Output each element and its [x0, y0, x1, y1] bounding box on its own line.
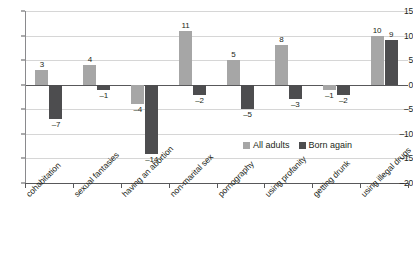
bar-value-label: 9 — [380, 30, 402, 39]
y-axis-tick-mark — [21, 133, 25, 134]
bar-value-label: 5 — [222, 50, 244, 59]
bar-value-label: –3 — [284, 100, 306, 109]
x-axis-tick-mark — [217, 183, 218, 188]
x-axis-tick-mark — [25, 183, 26, 188]
bar-born-again — [385, 40, 398, 84]
x-axis-tick-mark — [121, 183, 122, 188]
bar-all-adults — [227, 60, 240, 85]
bar-born-again — [97, 85, 110, 90]
bar-value-label: 3 — [31, 60, 53, 69]
bar-born-again — [49, 85, 62, 119]
y-axis-tick-label: –10 — [391, 129, 413, 139]
legend-label-all-adults: All adults — [253, 140, 290, 150]
y-axis-tick-mark — [21, 35, 25, 36]
bar-value-label: –2 — [332, 96, 354, 105]
y-axis-tick-mark — [21, 158, 25, 159]
x-axis-tick-mark — [312, 183, 313, 188]
bar-all-adults — [323, 85, 336, 90]
legend-swatch-icon-all-adults — [243, 142, 250, 149]
zero-line — [25, 85, 408, 86]
bar-born-again — [193, 85, 206, 95]
bar-value-label: 8 — [270, 35, 292, 44]
y-axis-line — [25, 11, 26, 183]
bar-value-label: –5 — [236, 110, 258, 119]
x-axis-tick-mark — [360, 183, 361, 188]
bar-born-again — [145, 85, 158, 154]
legend-item-born-again: Born again — [299, 140, 353, 150]
bar-born-again — [241, 85, 254, 110]
gridline — [25, 36, 408, 37]
legend-swatch-icon-born-again — [299, 142, 306, 149]
y-axis-tick-mark — [21, 11, 25, 12]
x-axis-tick-mark — [73, 183, 74, 188]
chart-legend: All adults Born again — [243, 140, 352, 150]
y-axis-tick-label: –5 — [391, 104, 413, 114]
bar-all-adults — [35, 70, 48, 85]
y-axis-tick-mark — [21, 109, 25, 110]
bar-all-adults — [131, 85, 144, 105]
gridline — [25, 134, 408, 135]
bar-born-again — [337, 85, 350, 95]
y-axis-tick-label: –20 — [391, 178, 413, 188]
legend-label-born-again: Born again — [309, 140, 353, 150]
bar-value-label: –2 — [189, 96, 211, 105]
bar-born-again — [289, 85, 302, 100]
bar-value-label: 11 — [175, 21, 197, 30]
y-axis-tick-mark — [21, 60, 25, 61]
y-axis-tick-mark — [21, 84, 25, 85]
bar-all-adults — [83, 65, 96, 85]
x-axis-tick-mark — [408, 183, 409, 188]
bar-value-label: –1 — [93, 91, 115, 100]
legend-item-all-adults: All adults — [243, 140, 290, 150]
x-axis-tick-mark — [169, 183, 170, 188]
bar-all-adults — [179, 31, 192, 85]
gridline — [25, 109, 408, 110]
x-axis-tick-mark — [264, 183, 265, 188]
bar-chart: 151050–5–10–15–20 3–74–1–4–1411–25–58–3–… — [0, 0, 413, 265]
bar-all-adults — [371, 36, 384, 85]
gridline — [25, 158, 408, 159]
y-axis-tick-label: 15 — [391, 6, 413, 16]
bar-value-label: –7 — [45, 120, 67, 129]
bar-all-adults — [275, 45, 288, 84]
gridline — [25, 11, 408, 12]
bar-value-label: 4 — [79, 55, 101, 64]
